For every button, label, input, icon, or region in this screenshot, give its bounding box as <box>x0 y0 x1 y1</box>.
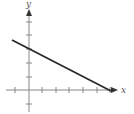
y-axis-arrow-icon <box>26 9 32 16</box>
y-axis-label: y <box>25 0 32 9</box>
x-axis-label: x <box>121 85 126 95</box>
plotted-line <box>12 40 111 91</box>
line-graph: x y <box>0 0 134 114</box>
x-axis-arrow-icon <box>111 87 118 93</box>
